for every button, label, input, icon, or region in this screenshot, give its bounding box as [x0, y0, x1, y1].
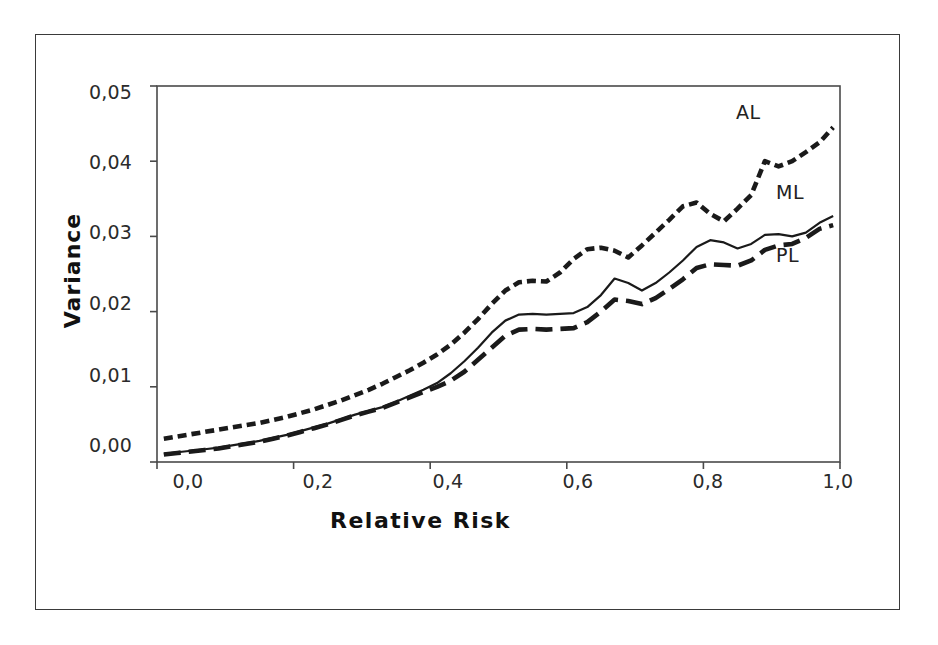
y-axis-ticks	[150, 86, 157, 462]
series-label-pl: PL	[776, 244, 799, 266]
chart-plot-area	[0, 0, 938, 645]
plot-box	[157, 86, 840, 462]
series-lines	[164, 127, 833, 454]
x-axis-title: Relative Risk	[330, 508, 511, 533]
y-tick-label-4: 0,01	[62, 364, 132, 386]
y-tick-label-1: 0,04	[62, 151, 132, 173]
figure-canvas: 0,05 0,04 0,03 0,02 0,01 0,00 0,0 0,2 0,…	[0, 0, 938, 645]
y-axis-title: Variance	[60, 181, 85, 361]
x-tick-label-2: 0,4	[418, 470, 478, 492]
series-line-al	[164, 127, 833, 438]
x-tick-label-3: 0,6	[548, 470, 608, 492]
x-tick-label-1: 0,2	[288, 470, 348, 492]
y-tick-label-0: 0,05	[62, 81, 132, 103]
axes-frame	[157, 86, 840, 462]
series-label-al: AL	[736, 101, 761, 123]
y-tick-label-5: 0,00	[62, 434, 132, 456]
series-line-ml	[164, 216, 833, 454]
series-label-ml: ML	[776, 181, 804, 203]
x-tick-label-4: 0,8	[678, 470, 738, 492]
x-tick-label-0: 0,0	[158, 470, 218, 492]
x-tick-label-5: 1,0	[808, 470, 868, 492]
x-axis-ticks	[157, 462, 840, 469]
